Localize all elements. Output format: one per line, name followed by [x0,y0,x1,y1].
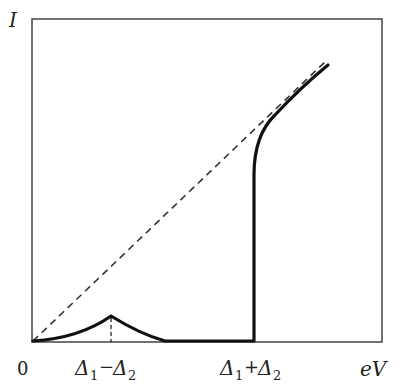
svg-text:−: − [99,356,114,377]
tick-label-sum: Δ 1 + Δ 2 [219,356,281,383]
x-axis-label: eV [360,357,389,381]
iv-diagram: I 0 Δ 1 − Δ 2 Δ 1 + Δ 2 eV [0,0,400,392]
tick-label-diff: Δ 1 − Δ 2 [74,356,136,383]
svg-text:2: 2 [128,368,136,383]
svg-text:1: 1 [235,368,243,383]
plot-frame [32,19,382,342]
svg-text:+: + [244,356,259,377]
origin-label: 0 [17,358,28,379]
svg-text:Δ: Δ [219,356,234,380]
svg-text:1: 1 [90,368,98,383]
svg-text:Δ: Δ [112,356,127,380]
svg-text:2: 2 [273,368,281,383]
y-axis-label: I [8,8,18,32]
svg-text:Δ: Δ [257,356,272,380]
asymptote-dashed-line [33,60,327,341]
svg-text:Δ: Δ [74,356,89,380]
